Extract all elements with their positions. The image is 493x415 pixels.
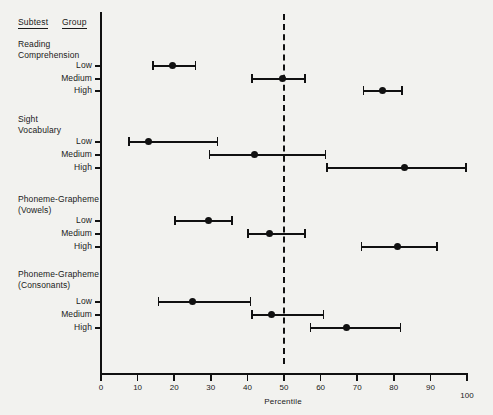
interval-cap-high [250,297,252,306]
interval-cap-low [158,297,160,306]
row-tick [95,327,102,329]
x-axis-tick-label: 30 [199,383,223,392]
x-axis-tick [320,375,322,381]
interval-marker [209,149,326,160]
row-tick [95,233,102,235]
interval-cap-high [231,216,233,225]
interval-marker [128,136,218,147]
group-label-low: Low [16,297,92,306]
data-point [279,75,286,82]
subtest-name: Phoneme-Grapheme (Consonants) [18,269,99,291]
group-label-medium: Medium [16,150,92,159]
interval-marker [310,322,402,333]
row-tick [95,314,102,316]
interval-range-bar [251,314,324,316]
interval-cap-low [247,229,249,238]
interval-cap-low [152,61,154,70]
interval-marker [174,215,233,226]
data-point [251,151,258,158]
interval-cap-high [400,323,402,332]
x-axis-tick-label: 70 [345,383,369,392]
group-label-high: High [16,86,92,95]
x-axis-tick [283,375,285,381]
x-axis-tick-label: 40 [235,383,259,392]
interval-cap-low [128,137,130,146]
chart-figure: Subtest Group Reading ComprehensionLowMe… [0,0,493,415]
interval-range-bar [128,141,218,143]
row-tick [95,301,102,303]
interval-range-bar [209,154,326,156]
x-axis-tick-label: 10 [126,383,150,392]
group-label-medium: Medium [16,310,92,319]
row-tick [95,167,102,169]
x-axis-tick [466,375,468,381]
x-axis-tick-label: 60 [309,383,333,392]
data-point [401,164,408,171]
data-point [205,217,212,224]
subtest-name: Sight Vocabulary [18,114,61,136]
x-axis-tick-label: 50 [272,383,296,392]
row-tick [95,246,102,248]
interval-cap-low [251,310,253,319]
x-axis-tick [137,375,139,381]
x-axis-tick [210,375,212,381]
interval-cap-high [323,310,325,319]
interval-cap-high [304,74,306,83]
interval-cap-low [310,323,312,332]
interval-marker [363,85,403,96]
interval-cap-high [217,137,219,146]
interval-marker [152,60,196,71]
interval-cap-high [465,163,467,172]
row-tick [95,65,102,67]
subtest-name: Phoneme-Grapheme (Vowels) [18,194,99,216]
x-axis-title: Percentile [264,397,302,406]
x-axis-tick-label: 80 [382,383,406,392]
interval-range-bar [158,301,251,303]
x-axis-tick [356,375,358,381]
column-header-group: Group [62,17,87,29]
interval-marker [251,309,324,320]
group-label-low: Low [16,137,92,146]
interval-cap-low [251,74,253,83]
group-label-low: Low [16,61,92,70]
interval-range-bar [174,220,233,222]
x-axis-tick-label: 0 [89,383,113,392]
interval-marker [326,162,467,173]
interval-cap-high [304,229,306,238]
interval-cap-high [401,86,403,95]
interval-marker [251,73,306,84]
data-point [268,311,275,318]
group-label-high: High [16,242,92,251]
x-axis-tick [247,375,249,381]
x-axis-tick-label: 90 [418,383,442,392]
group-label-medium: Medium [16,229,92,238]
x-axis-tick [430,375,432,381]
group-label-high: High [16,163,92,172]
data-point [145,138,152,145]
group-label-medium: Medium [16,74,92,83]
x-axis-tick [173,375,175,381]
data-point [343,324,350,331]
x-axis-tick [393,375,395,381]
row-tick [95,141,102,143]
data-point [266,230,273,237]
row-tick [95,220,102,222]
column-header-subtest: Subtest [18,17,48,29]
interval-cap-high [436,242,438,251]
interval-marker [247,228,306,239]
data-point [189,298,196,305]
row-tick [95,90,102,92]
x-axis-tick-label: 100 [455,391,479,400]
interval-range-bar [310,327,402,329]
interval-cap-high [325,150,327,159]
interval-cap-low [174,216,176,225]
interval-range-bar [247,233,306,235]
interval-cap-high [195,61,197,70]
row-tick [95,78,102,80]
interval-cap-low [361,242,363,251]
interval-cap-low [326,163,328,172]
interval-cap-low [363,86,365,95]
x-axis-tick-label: 20 [162,383,186,392]
data-point [394,243,401,250]
group-label-high: High [16,323,92,332]
